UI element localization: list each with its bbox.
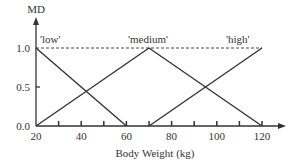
x-tick-label-60: 60	[121, 130, 133, 142]
y-axis	[33, 17, 39, 126]
annotation-high: 'high'	[226, 33, 250, 45]
x-tick-label-40: 40	[76, 130, 88, 142]
x-tick-label-20: 20	[31, 130, 43, 142]
x-axis-arrow-icon	[278, 123, 286, 129]
series-medium	[36, 48, 262, 126]
y-tick-label-05: 0.5	[16, 81, 30, 93]
x-axis	[36, 123, 286, 129]
y-tick-label-0: 0.0	[16, 120, 30, 132]
y-axis-label: MD	[27, 3, 45, 15]
annotation-medium: 'medium'	[128, 33, 168, 45]
x-tick-label-100: 100	[209, 130, 226, 142]
y-axis-arrow-icon	[33, 17, 39, 25]
x-ticks	[59, 121, 262, 126]
series-low	[36, 48, 126, 126]
annotation-low: 'low'	[40, 33, 60, 45]
x-axis-label: Body Weight (kg)	[116, 147, 195, 160]
x-tick-label-80: 80	[166, 130, 178, 142]
x-tick-label-120: 120	[254, 130, 271, 142]
fuzzy-membership-chart: MD 1.0 0.5 0.0 20 40 60 80 100 120 Body …	[0, 0, 293, 167]
y-tick-label-1: 1.0	[16, 42, 30, 54]
series-lines	[36, 48, 262, 126]
